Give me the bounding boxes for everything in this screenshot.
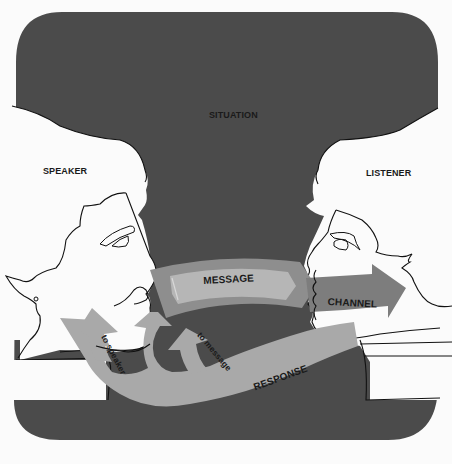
situation-label: SITUATION: [209, 110, 258, 120]
diagram-artwork: [0, 0, 452, 464]
speaker-label: SPEAKER: [43, 166, 87, 176]
listener-label: LISTENER: [366, 168, 411, 178]
communication-diagram: SITUATION SPEAKER LISTENER MESSAGE CHANN…: [0, 0, 452, 464]
